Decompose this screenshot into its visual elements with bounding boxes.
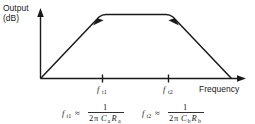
y-axis-label-line1: Output — [3, 3, 29, 13]
formula-ft1-denominator-r-subscript: a — [118, 118, 121, 124]
formula-ft1-denominator-c: C — [101, 113, 107, 123]
formula-ft2-relation: ≈ — [155, 108, 160, 118]
y-axis-label-line2: (dB) — [3, 13, 19, 23]
formula-ft2-denominator-r: R — [191, 113, 198, 123]
formula-ft1-denominator-pi: π — [94, 113, 99, 123]
x-tick-label-ft1: f — [97, 84, 101, 94]
formula-ft1-subscript: t1 — [67, 113, 72, 119]
formula-ft1-relation: ≈ — [75, 108, 80, 118]
formula-ft1-numerator: 1 — [103, 102, 107, 112]
figure-container: Output (dB) f t1 f t2 Frequency f t1 ≈ 1 — [0, 0, 255, 124]
formula-ft1-denominator-r: R — [111, 113, 118, 123]
formula-ft2-subscript: t2 — [147, 113, 152, 119]
formula-ft2-numerator: 1 — [183, 102, 187, 112]
formula-ft2-denominator-pi: π — [174, 113, 179, 123]
formula-ft2-denominator-c-subscript: b — [188, 118, 191, 124]
bandpass-response-figure: Output (dB) f t1 f t2 Frequency f t1 ≈ 1 — [0, 0, 255, 124]
x-tick-label-ft2: f — [163, 84, 167, 94]
formula-ft2: f t2 ≈ 1 2 π C b R b — [142, 102, 204, 124]
response-curve — [41, 15, 231, 79]
formula-ft1-denominator-number: 2 — [89, 113, 93, 123]
y-axis-arrowhead-icon — [37, 8, 44, 17]
formula-ft2-symbol: f — [142, 108, 146, 118]
x-axis-label: Frequency — [199, 84, 240, 94]
formula-ft1-denominator-c-subscript: a — [108, 118, 111, 124]
formula-ft2-denominator-r-subscript: b — [198, 118, 201, 124]
x-tick-label-ft1-subscript: t1 — [102, 89, 107, 95]
formula-ft2-denominator-c: C — [181, 113, 187, 123]
formula-ft2-denominator-number: 2 — [169, 113, 173, 123]
x-axis-arrowhead-icon — [237, 75, 246, 82]
x-tick-label-ft2-subscript: t2 — [168, 89, 173, 95]
formula-ft1-symbol: f — [62, 108, 66, 118]
formula-ft1: f t1 ≈ 1 2 π C a R a — [62, 102, 124, 124]
